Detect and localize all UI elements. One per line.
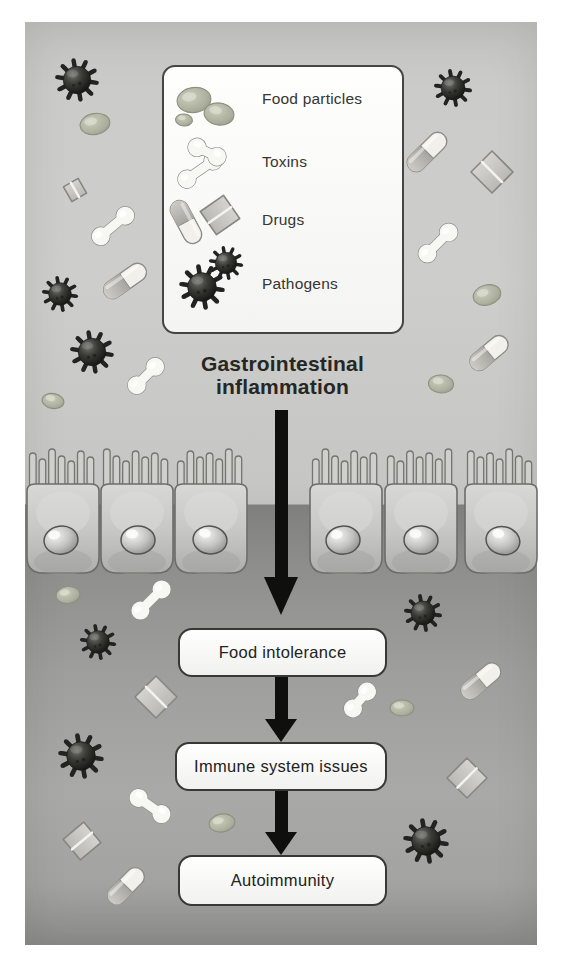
bone-icon — [124, 783, 176, 829]
blob-icon — [174, 112, 194, 128]
pathogen-icon — [41, 275, 79, 313]
blob-icon — [427, 373, 456, 395]
flow-box-label: Food intolerance — [219, 643, 347, 662]
pathogen-icon — [57, 732, 105, 780]
pathogen-icon — [79, 623, 117, 661]
legend-label-drugs: Drugs — [262, 211, 304, 229]
main-arrow-shaft — [275, 410, 288, 577]
flow-arrow-shaft — [275, 787, 288, 832]
diamond-icon — [59, 818, 105, 864]
capsule-icon — [402, 127, 451, 176]
pathogen-icon — [54, 57, 100, 103]
capsule-icon — [465, 331, 513, 376]
epithelial-cell — [383, 443, 459, 575]
flow-box-autoimmunity: Autoimmunity — [178, 855, 387, 906]
pathogen-icon — [403, 593, 443, 633]
bone-icon — [338, 677, 382, 723]
blob-icon — [206, 811, 237, 836]
flow-arrow-head-icon — [265, 832, 297, 855]
pathogen-icon — [402, 817, 450, 865]
page: { "title": { "line1": "Gastrointestinal"… — [0, 0, 562, 967]
blob-icon — [40, 391, 67, 412]
title-line-2: inflammation — [140, 375, 425, 398]
main-arrow-head-icon — [264, 577, 298, 615]
blob-icon — [201, 100, 236, 128]
pathogen-icon — [433, 68, 473, 108]
legend-label-pathogens: Pathogens — [262, 275, 338, 293]
diamond-icon — [58, 173, 92, 207]
flow-box-label: Immune system issues — [194, 757, 368, 776]
pathogen-icon — [69, 329, 115, 375]
legend-box: Food particlesToxins Drugs Pathogens — [162, 65, 404, 334]
diamond-icon — [133, 674, 179, 720]
blob-icon — [389, 699, 415, 717]
bone-icon — [413, 218, 464, 269]
flow-box-immune-system-issues: Immune system issues — [175, 742, 387, 791]
epithelial-cell — [173, 443, 249, 575]
title-line-1: Gastrointestinal — [140, 352, 425, 375]
capsule-icon — [103, 863, 150, 910]
pathogen-icon — [178, 263, 226, 311]
legend-label-food-particles: Food particles — [262, 90, 362, 108]
diagram-title: Gastrointestinal inflammation — [140, 352, 425, 398]
diagram-canvas: Food particlesToxins Drugs Pathogens Gas… — [25, 22, 537, 945]
epithelial-cell — [308, 443, 384, 575]
legend-label-toxins: Toxins — [262, 153, 307, 171]
diamond-icon — [445, 756, 489, 800]
diamond-icon — [195, 190, 246, 241]
flow-box-food-intolerance: Food intolerance — [178, 628, 387, 677]
blob-icon — [470, 280, 505, 309]
flow-arrow-head-icon — [265, 719, 297, 742]
bone-icon — [126, 575, 177, 626]
blob-icon — [77, 110, 113, 138]
epithelial-cell — [25, 443, 101, 575]
epithelial-cell — [99, 443, 175, 575]
blob-icon — [54, 584, 82, 605]
epithelial-cell — [463, 443, 539, 575]
diamond-icon — [469, 149, 515, 195]
capsule-icon — [99, 258, 151, 303]
capsule-icon — [456, 658, 506, 704]
bone-icon — [86, 201, 140, 251]
flow-arrow-shaft — [275, 673, 288, 719]
flow-box-label: Autoimmunity — [231, 871, 335, 890]
